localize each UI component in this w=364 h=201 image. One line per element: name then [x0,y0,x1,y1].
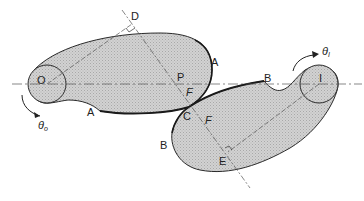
cam-contact-diagram: O I D P C E A A B B F F θo θI [0,0,364,201]
theta-o-arrowhead-icon [34,112,40,118]
label-p: P [177,71,184,83]
label-i: I [319,72,322,84]
label-theta-i: θI [322,45,330,58]
label-c: C [183,110,191,122]
label-b-upper: B [264,72,271,84]
theta-i-arrowhead-icon [312,51,319,58]
label-o: O [37,74,46,86]
label-a-upper: A [211,56,219,68]
label-e: E [219,155,226,167]
right-angle-marker-d [126,28,135,32]
label-b-lower: B [160,139,167,151]
label-d: D [131,10,139,22]
label-theta-o: θo [38,119,48,132]
label-a-lower: A [87,106,95,118]
